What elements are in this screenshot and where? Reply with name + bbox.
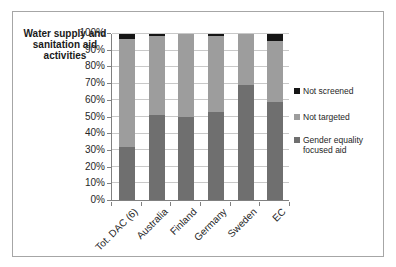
gridline	[112, 133, 289, 134]
x-axis-tick	[170, 202, 171, 206]
bar-segment-not-targeted	[267, 41, 283, 102]
y-axis-tick	[107, 133, 111, 134]
legend-item-not-targeted: Not targeted	[294, 112, 384, 122]
legend-label: Gender equality focused aid	[303, 135, 381, 155]
plot-area	[111, 34, 289, 201]
x-axis-tick	[259, 202, 260, 206]
bar-tot-dac-6-	[119, 34, 135, 200]
x-axis-tick	[111, 202, 112, 206]
x-axis-tick	[141, 202, 142, 206]
legend-swatch-icon	[294, 114, 300, 120]
y-tick-label: 100%	[71, 28, 105, 38]
bar-segment-not-targeted	[119, 39, 135, 147]
bar-australia	[149, 34, 165, 200]
x-axis-tick	[200, 202, 201, 206]
bar-segment-gender-equality-focused-aid	[238, 85, 254, 200]
gridline	[112, 149, 289, 150]
page: Water supply and sanitation aid activiti…	[0, 0, 396, 267]
legend-item-gender-equality-focused-aid: Gender equality focused aid	[294, 135, 384, 155]
legend-item-not-screened: Not screened	[294, 86, 384, 96]
y-axis-tick	[107, 50, 111, 51]
bar-segment-gender-equality-focused-aid	[119, 147, 135, 200]
gridline	[112, 116, 289, 117]
gridline	[112, 83, 289, 84]
bar-segment-not-targeted	[238, 34, 254, 85]
gridline	[112, 66, 289, 67]
y-tick-label: 70%	[71, 78, 105, 88]
y-tick-label: 90%	[71, 45, 105, 55]
y-axis-tick	[107, 66, 111, 67]
y-axis-tick	[107, 150, 111, 151]
bar-segment-not-targeted	[149, 36, 165, 116]
bar-finland	[178, 34, 194, 200]
bar-segment-gender-equality-focused-aid	[267, 102, 283, 200]
y-tick-label: 80%	[71, 61, 105, 71]
y-tick-label: 10%	[71, 178, 105, 188]
y-axis-tick	[107, 33, 111, 34]
legend-swatch-icon	[294, 137, 300, 143]
gridline	[112, 182, 289, 183]
gridline	[112, 33, 289, 34]
y-axis-tick	[107, 200, 111, 201]
y-tick-label: 0%	[71, 195, 105, 205]
bar-segment-not-screened	[267, 34, 283, 41]
x-axis-tick	[289, 202, 290, 206]
bar-segment-gender-equality-focused-aid	[208, 112, 224, 200]
bar-segment-not-targeted	[178, 34, 194, 117]
y-tick-label: 30%	[71, 145, 105, 155]
legend-swatch-icon	[294, 88, 300, 94]
y-axis-tick	[107, 117, 111, 118]
legend: Not screenedNot targetedGender equality …	[294, 12, 386, 258]
chart-figure: Water supply and sanitation aid activiti…	[12, 11, 384, 257]
gridline	[112, 99, 289, 100]
legend-label: Not targeted	[303, 112, 381, 122]
gridline	[112, 166, 289, 167]
bar-segment-gender-equality-focused-aid	[178, 117, 194, 200]
y-tick-label: 20%	[71, 162, 105, 172]
bar-ec	[267, 34, 283, 200]
y-axis-tick	[107, 183, 111, 184]
y-axis-tick	[107, 83, 111, 84]
bar-germany	[208, 34, 224, 200]
y-tick-label: 40%	[71, 128, 105, 138]
legend-label: Not screened	[303, 86, 381, 96]
bar-segment-not-targeted	[208, 36, 224, 112]
y-axis-tick	[107, 167, 111, 168]
bar-segment-gender-equality-focused-aid	[149, 115, 165, 200]
y-tick-label: 50%	[71, 112, 105, 122]
gridline	[112, 50, 289, 51]
x-axis-tick	[230, 202, 231, 206]
y-tick-label: 60%	[71, 95, 105, 105]
bar-sweden	[238, 34, 254, 200]
y-axis-tick	[107, 100, 111, 101]
